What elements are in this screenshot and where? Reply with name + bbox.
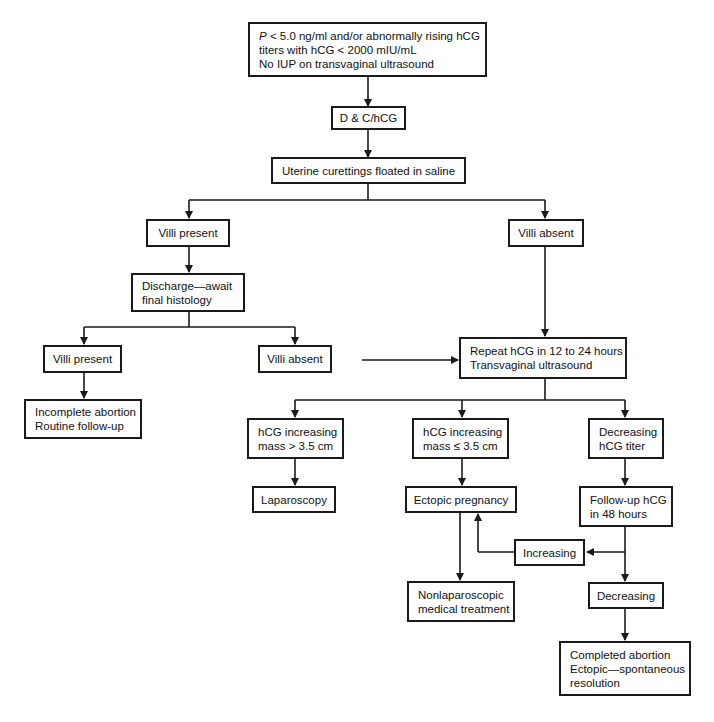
node-text: mass ≤ 3.5 cm [423, 439, 498, 453]
node-text: Completed abortion [570, 648, 680, 662]
node-text: titers with hCG < 2000 mIU/mL [259, 43, 476, 57]
node-text: Repeat hCG in 12 to 24 hours [470, 344, 616, 358]
p-label: P [259, 30, 267, 42]
node-text: mass > 3.5 cm [258, 439, 333, 453]
node-nonlaparoscopic-treatment: Nonlaparoscopic medical treatment [407, 581, 515, 622]
node-completed-abortion: Completed abortion Ectopic—spontaneous r… [559, 641, 691, 696]
node-text: resolution [570, 676, 680, 690]
node-discharge: Discharge—await final histology [131, 273, 245, 312]
node-text: D & C/hCG [340, 111, 398, 125]
node-text: hCG increasing [258, 425, 333, 439]
node-text: Ectopic pregnancy [414, 493, 509, 507]
node-text: Discharge—await [142, 279, 234, 293]
node-decreasing: Decreasing [588, 582, 664, 609]
node-increasing: Increasing [514, 539, 585, 566]
node-text: No IUP on transvaginal ultrasound [259, 57, 476, 71]
node-villi-present-2: Villi present [43, 345, 122, 373]
node-text: Routine follow-up [35, 419, 131, 433]
node-text: Nonlaparoscopic [418, 588, 504, 602]
node-text: Villi present [158, 226, 217, 240]
node-text: hCG increasing [423, 425, 498, 439]
node-incomplete-abortion: Incomplete abortion Routine follow-up [24, 399, 142, 439]
node-text: < 5.0 ng/ml and/or abnormally rising hCG [270, 30, 480, 42]
node-villi-absent-1: Villi absent [508, 219, 584, 247]
node-text: Villi absent [267, 352, 322, 366]
node-text: Incomplete abortion [35, 405, 131, 419]
node-text: Villi present [53, 352, 112, 366]
node-text: Villi absent [518, 226, 573, 240]
node-text: Decreasing [599, 425, 653, 439]
node-villi-absent-2: Villi absent [258, 345, 332, 373]
node-text: Decreasing [597, 589, 655, 603]
node-text: medical treatment [418, 602, 504, 616]
node-repeat-hcg: Repeat hCG in 12 to 24 hours Transvagina… [459, 337, 627, 379]
node-text: Increasing [523, 546, 576, 560]
node-text: in 48 hours [590, 507, 662, 521]
node-hcg-increasing-small: hCG increasing mass ≤ 3.5 cm [412, 418, 509, 459]
node-text: Laparoscopy [261, 493, 327, 507]
node-text: Ectopic—spontaneous [570, 662, 680, 676]
node-ectopic-pregnancy: Ectopic pregnancy [405, 486, 517, 513]
flowchart: P < 5.0 ng/ml and/or abnormally rising h… [0, 0, 714, 722]
node-laparoscopy: Laparoscopy [252, 486, 336, 513]
node-text: Uterine curettings floated in saline [282, 164, 455, 178]
node-text: Transvaginal ultrasound [470, 358, 616, 372]
node-decreasing-hcg-titer: Decreasing hCG titer [588, 418, 664, 459]
node-followup-hcg: Follow-up hCG in 48 hours [579, 486, 673, 527]
node-start-criteria: P < 5.0 ng/ml and/or abnormally rising h… [248, 22, 487, 77]
node-villi-present-1: Villi present [146, 219, 230, 247]
node-text: final histology [142, 293, 234, 307]
node-text: hCG titer [599, 439, 653, 453]
node-hcg-increasing-large: hCG increasing mass > 3.5 cm [247, 418, 344, 459]
node-text: Follow-up hCG [590, 493, 662, 507]
node-uterine-curettings: Uterine curettings floated in saline [271, 157, 466, 184]
node-dc-hcg: D & C/hCG [331, 106, 406, 130]
